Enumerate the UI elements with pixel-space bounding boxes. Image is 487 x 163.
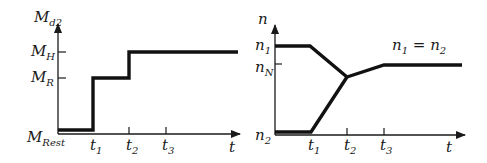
label-t1-right: t1 bbox=[308, 136, 320, 156]
label-nn: nN bbox=[255, 58, 275, 78]
torque-curve bbox=[58, 52, 238, 130]
label-t3-right: t3 bbox=[380, 136, 392, 156]
label-n2: n2 bbox=[255, 126, 271, 146]
annotation-n1-equals-n2: n1 = n2 bbox=[392, 36, 446, 56]
label-t-left: t bbox=[229, 138, 236, 156]
y-label-md2: Md2 bbox=[33, 8, 62, 28]
n2-curve bbox=[275, 77, 347, 132]
label-mr: MR bbox=[30, 68, 54, 88]
label-n1: n1 bbox=[255, 36, 271, 56]
speed-plot: n n1 nN n2 t1 t2 t3 t n1 = n2 bbox=[255, 10, 465, 156]
label-t-right: t bbox=[446, 138, 453, 156]
label-t1-left: t1 bbox=[90, 136, 102, 156]
label-t3-left: t3 bbox=[162, 136, 174, 156]
n1-curve bbox=[275, 46, 347, 77]
n1-equals-n2-curve bbox=[347, 65, 462, 77]
y-label-n: n bbox=[258, 10, 268, 28]
diagram-canvas: Md2 MH MR MRest t1 t2 t3 t n n1 nN n2 t1… bbox=[0, 0, 487, 163]
label-t2-left: t2 bbox=[126, 136, 138, 156]
label-mh: MH bbox=[30, 42, 55, 62]
torque-plot: Md2 MH MR MRest t1 t2 t3 t bbox=[26, 8, 240, 156]
label-t2-right: t2 bbox=[344, 136, 356, 156]
